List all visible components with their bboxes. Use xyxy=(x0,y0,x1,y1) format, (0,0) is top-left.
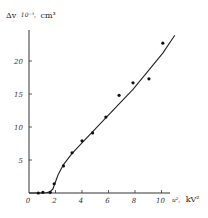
x-axis-unit: kV² xyxy=(186,195,200,204)
y-axis-scale: 10⁻³, xyxy=(21,11,36,18)
data-point xyxy=(91,131,94,134)
fit-curve xyxy=(29,35,175,193)
data-point xyxy=(37,191,40,194)
x-tick-label: 2 xyxy=(51,197,57,205)
chart: 5101520 0246810 Δv 10⁻³, cm³ u², kV² xyxy=(0,0,208,218)
y-tick-label: 5 xyxy=(19,157,24,165)
x-axis-title: u², kV² xyxy=(172,195,200,204)
y-axis-unit: cm³ xyxy=(41,11,56,20)
fit-line xyxy=(29,35,175,193)
y-axis-title: Δv 10⁻³, cm³ xyxy=(6,10,56,20)
data-point xyxy=(80,139,83,142)
data-point xyxy=(131,81,134,84)
x-tick-label: 4 xyxy=(78,197,83,205)
data-point xyxy=(161,42,164,45)
x-tick-label: 6 xyxy=(105,197,110,205)
x-tick-label: 0 xyxy=(26,197,31,205)
data-point xyxy=(41,191,44,194)
axes xyxy=(29,30,170,193)
x-axis-symbol: u², xyxy=(172,196,180,203)
x-tick-label: 8 xyxy=(132,197,137,205)
data-point xyxy=(53,182,56,185)
y-tick-label: 10 xyxy=(14,124,23,132)
data-point xyxy=(118,94,121,97)
y-axis-symbol: Δv xyxy=(6,11,17,20)
y-tick-label: 20 xyxy=(13,58,23,66)
x-tick-label: 10 xyxy=(156,197,165,205)
data-point xyxy=(49,191,52,194)
data-points xyxy=(37,42,165,195)
data-point xyxy=(147,77,150,80)
data-point xyxy=(70,151,73,154)
data-point xyxy=(62,164,65,167)
y-tick-label: 15 xyxy=(14,91,23,99)
data-point xyxy=(104,116,107,119)
